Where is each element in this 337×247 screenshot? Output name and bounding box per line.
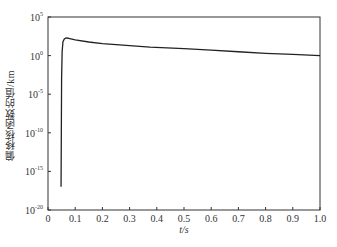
plot-area [48, 17, 320, 210]
x-tick-label: 0 [46, 213, 51, 224]
y-tick-label: 10-20 [25, 204, 43, 216]
plot-border [48, 17, 320, 210]
y-axis-label-container: 偏移核函数的值/km [2, 40, 18, 190]
x-tick-label: 0.7 [232, 213, 245, 224]
x-tick-label: 0.3 [123, 213, 136, 224]
y-tick-label: 105 [30, 11, 43, 23]
x-axis-label: t/s [179, 224, 189, 235]
x-tick-label: 1.0 [314, 213, 327, 224]
x-tick-label: 0.8 [259, 213, 272, 224]
chart-figure: 00.10.20.30.40.50.60.70.80.91.0 10510010… [0, 0, 337, 247]
x-tick-label: 0.1 [69, 213, 82, 224]
y-axis-label: 偏移核函数的值/km [3, 70, 18, 161]
y-tick-label: 10-5 [28, 88, 43, 100]
x-tick-label: 0.4 [151, 213, 164, 224]
x-tick-label: 0.2 [96, 213, 109, 224]
x-tick-label: 0.6 [205, 213, 218, 224]
y-tick-label: 10-15 [25, 165, 43, 177]
y-tick-label: 100 [30, 50, 43, 62]
x-tick-label: 0.9 [287, 213, 300, 224]
data-line [61, 38, 320, 187]
y-axis: 10510010-510-1010-1510-20 [25, 11, 51, 216]
y-tick-label: 10-10 [25, 127, 43, 139]
x-tick-label: 0.5 [178, 213, 191, 224]
